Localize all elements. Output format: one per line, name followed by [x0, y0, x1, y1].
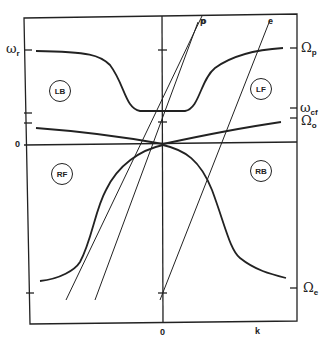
region-LF: LF [250, 78, 272, 100]
line-o-label: o [201, 17, 207, 26]
y-zero-label: 0 [15, 140, 20, 149]
x-zero-label: 0 [160, 328, 165, 337]
region-RF: RF [51, 163, 73, 185]
curve-upper [36, 48, 283, 111]
k-zero-axis [162, 16, 163, 322]
omega-r-label: ωr [6, 42, 20, 58]
line-o [95, 22, 198, 300]
line-e [160, 20, 270, 300]
Omega-e-label: Ωe [303, 281, 318, 297]
region-LB: LB [49, 80, 71, 102]
dispersion-plot [0, 0, 326, 344]
curve-middle-left [36, 128, 163, 144]
Omega-p-label: Ωp [301, 41, 317, 57]
region-RB: RB [250, 160, 272, 182]
Omega-o-label: Ωo [301, 114, 317, 130]
curve-middle-right [163, 122, 281, 144]
k-axis-label: k [255, 327, 260, 336]
line-e-label: e [268, 17, 273, 26]
